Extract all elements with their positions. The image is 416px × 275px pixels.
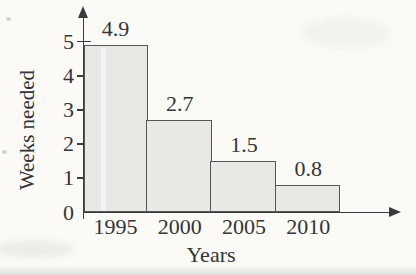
y-tick-label: 3 xyxy=(36,97,74,123)
scan-speck-artifact xyxy=(6,17,11,21)
bar-2010 xyxy=(275,185,341,212)
scan-smudge-artifact xyxy=(300,18,390,48)
bar-value-label: 4.9 xyxy=(81,17,151,41)
x-axis-arrow-icon xyxy=(389,207,401,217)
scan-streak-artifact xyxy=(101,48,106,211)
x-tick-label: 1995 xyxy=(81,215,151,239)
bar-value-label: 2.7 xyxy=(145,92,215,116)
y-tick-label: 2 xyxy=(36,131,74,157)
x-tick-label: 2000 xyxy=(145,215,215,239)
y-tick-label: 0 xyxy=(36,200,74,226)
x-tick-label: 2010 xyxy=(273,215,343,239)
bar-2005 xyxy=(210,161,276,212)
scan-speck-artifact xyxy=(2,150,7,154)
bar-value-label: 1.5 xyxy=(209,133,279,157)
y-tick-label: 1 xyxy=(36,165,74,191)
y-tick-label: 5 xyxy=(36,29,74,55)
scan-shadow-artifact xyxy=(0,266,416,275)
scanned-bar-chart: Weeks needed 012345 4.92.71.50.8 1995200… xyxy=(0,0,416,275)
x-tick-label: 2005 xyxy=(209,215,279,239)
scan-smudge-artifact xyxy=(0,240,74,258)
bar-value-label: 0.8 xyxy=(273,157,343,181)
x-axis-title: Years xyxy=(171,242,251,268)
bar-2000 xyxy=(146,120,212,212)
y-tick-label: 4 xyxy=(36,63,74,89)
bar-1995 xyxy=(84,45,148,213)
